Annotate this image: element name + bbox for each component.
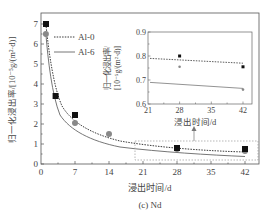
legend-label-al0: Al-0 xyxy=(78,32,95,42)
inset-y-tick-label: 0.7 xyxy=(136,76,146,85)
chart-caption: (c) Nd xyxy=(138,200,162,210)
inset-al6-marker xyxy=(242,88,245,91)
inset-y-tick-label: 0.8 xyxy=(136,52,146,61)
inset-x-tick-label: 21 xyxy=(144,106,152,115)
x-tick-label: 0 xyxy=(39,167,44,177)
y-tick-label: 6 xyxy=(34,39,39,49)
x-axis-label: 浸出时间/d xyxy=(128,182,172,193)
y-tick-label: 7 xyxy=(34,19,39,29)
inset-y-axis-label-2: [10⁻⁵g/(m²·d)] xyxy=(113,46,122,90)
inset-al0-marker xyxy=(242,65,245,68)
inset-y-axis-label-1: 归一化浸出率/ xyxy=(102,45,112,90)
inset-x-tick-label: 42 xyxy=(239,106,247,115)
y-axis-label: 归一化浸出率/[10⁻⁵g/(m²·d)] xyxy=(7,37,17,144)
x-tick-label: 42 xyxy=(241,167,250,177)
y-tick-label: 0 xyxy=(34,159,39,169)
x-axis xyxy=(58,161,245,164)
leaching-rate-chart: 0 1 2 3 4 5 6 7 0 7 14 21 28 35 42 浸出时间/… xyxy=(0,0,271,224)
y-tick-label: 2 xyxy=(34,119,39,129)
x-tick-label: 35 xyxy=(207,167,217,177)
y-tick-label: 4 xyxy=(34,79,39,89)
x-tick-label: 7 xyxy=(73,167,78,177)
y-tick-label: 3 xyxy=(34,99,39,109)
inset-al6-marker xyxy=(178,66,181,69)
y-tick-label: 5 xyxy=(34,59,39,69)
y-axis xyxy=(41,24,44,164)
inset-x-tick-label: 35 xyxy=(207,106,215,115)
inset-chart: 0.6 0.7 0.8 0.9 21 28 35 42 浸出时间/d 归一化浸出… xyxy=(102,28,252,127)
legend: Al-0 Al-6 xyxy=(54,32,95,57)
x-tick-label: 28 xyxy=(173,167,183,177)
inset-x-axis-label: 浸出时间/d xyxy=(174,117,217,127)
x-tick-label: 21 xyxy=(139,167,148,177)
y-tick-label: 1 xyxy=(34,139,39,149)
legend-label-al6: Al-6 xyxy=(78,47,95,57)
inset-al0-marker xyxy=(178,55,181,58)
x-tick-label: 14 xyxy=(105,167,115,177)
inset-x-tick-label: 28 xyxy=(176,106,184,115)
inset-y-tick-label: 0.9 xyxy=(136,28,146,37)
